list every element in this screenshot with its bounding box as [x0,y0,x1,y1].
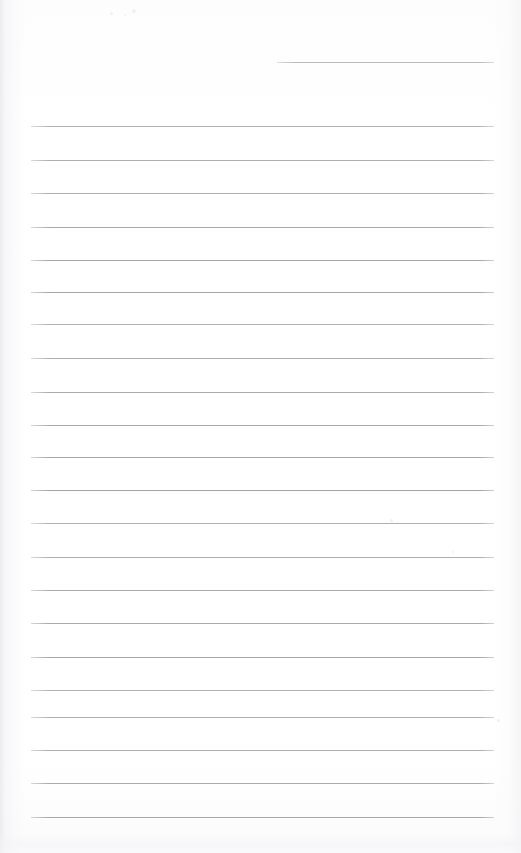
scan-speck [110,12,113,15]
header-rule [277,62,494,63]
ruled-line [31,392,494,393]
ruled-line [31,126,494,127]
ruled-line [31,260,494,261]
notepaper-page [0,0,521,853]
ruled-line [31,590,494,591]
ruled-line [31,557,494,558]
ruled-line [31,193,494,194]
ruled-line [31,783,494,784]
ruled-line [31,425,494,426]
bottom-edge-smudge [0,834,521,853]
scan-speck [452,551,454,553]
ruled-line [31,324,494,325]
ruled-line [31,750,494,751]
ruled-line [31,160,494,161]
ruled-line [31,623,494,624]
ruled-line [31,657,494,658]
scan-speck [124,14,126,16]
ruled-line [31,523,494,524]
scan-speck [497,719,500,722]
ruled-line [31,817,494,818]
scan-speck [390,519,393,522]
ruled-line [31,292,494,293]
left-edge-scan-shadow [0,0,14,853]
ruled-line [31,490,494,491]
scan-speck [132,9,136,13]
ruled-line [31,690,494,691]
ruled-line [31,358,494,359]
ruled-line [31,227,494,228]
ruled-line [31,457,494,458]
ruled-line [31,717,494,718]
right-edge-scan-shadow [509,0,521,853]
